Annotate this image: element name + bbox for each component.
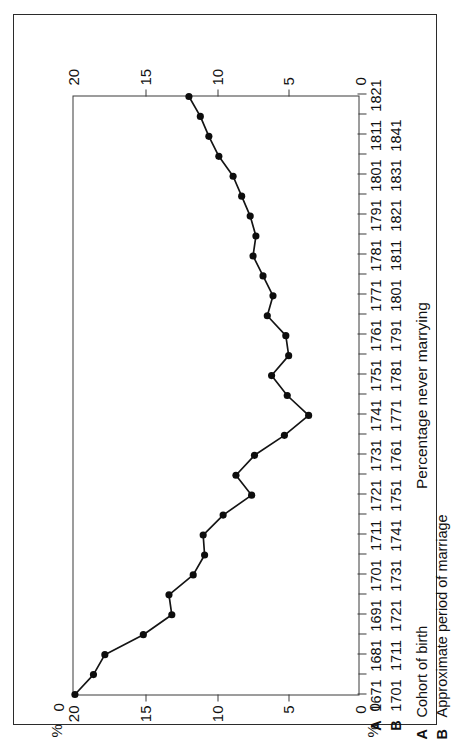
x-axis-tick-label: 1731 (386, 559, 404, 591)
data-point-marker (252, 232, 259, 239)
x-axis-tick-label: 1831 (386, 159, 404, 191)
x-axis-tick-label: 1841 (386, 119, 404, 151)
data-point-marker (269, 292, 276, 299)
x-axis-tick-label: 1781 (386, 359, 404, 391)
y-axis-title: Percentage never marrying (412, 95, 430, 695)
x-axis-tick-label: 1741 (366, 399, 384, 431)
plot-area (73, 96, 358, 694)
data-point-marker (215, 152, 222, 159)
x-axis-tick (358, 113, 366, 114)
series-polyline (74, 96, 308, 694)
y-axis-tick (145, 89, 146, 96)
y-axis-tick-label: 20 (66, 68, 81, 85)
y-axis-tick-label: 5 (281, 705, 296, 713)
x-axis-tick (358, 673, 366, 674)
x-axis-tick-label: 1711 (366, 519, 384, 550)
x-axis-tick (358, 273, 366, 274)
x-axis-tick (358, 193, 366, 194)
x-axis-tick (357, 173, 366, 174)
x-axis-tick (357, 533, 366, 534)
data-point-marker (201, 551, 208, 558)
x-axis-tick-label: 1721 (366, 479, 384, 511)
x-axis-tick-label: 1791 (366, 199, 384, 231)
x-axis-tick-label: 1801 (366, 159, 384, 191)
x-axis-tick (357, 293, 366, 294)
x-axis-tick-label: 1771 (386, 399, 404, 431)
data-point-marker (165, 591, 172, 598)
x-axis-tick (357, 333, 366, 334)
x-axis-tick-label: 1751 (386, 479, 404, 511)
x-axis-tick-label: 1681 (366, 639, 384, 671)
x-axis-tick-label: 1811 (366, 119, 384, 150)
x-axis-tick-label: 1811 (386, 239, 404, 270)
data-point-marker (196, 112, 203, 119)
x-origin-zero-top: 0 (50, 703, 65, 711)
y-axis-tick-label: 15 (137, 705, 152, 722)
x-axis-tick (357, 93, 366, 94)
legend-text-b: Approximate period of marriage (432, 514, 450, 717)
x-axis-tick-label: 1671 (366, 679, 384, 711)
plot-box: 0055101015152020 (72, 95, 359, 695)
x-axis-tick-label: 1741 (386, 519, 404, 551)
y-axis-tick-label: 0 (353, 705, 368, 713)
x-axis-tick-label: 1821 (366, 79, 384, 111)
x-axis-tick-label: 1761 (366, 319, 384, 351)
x-axis-row-cohort-of-birth: 1671168116911701171117211731174117511761… (366, 95, 384, 695)
x-axis-tick (357, 453, 366, 454)
y-axis-tick (145, 694, 146, 701)
x-axis-tick (358, 353, 366, 354)
x-axis-tick (357, 133, 366, 134)
y-axis-tick-label: 10 (209, 705, 224, 722)
figure: % % 0 0 0055101015152020 167116811691170… (14, 15, 463, 744)
data-point-marker (263, 312, 270, 319)
x-axis-tick (357, 653, 366, 654)
x-axis-tick (357, 253, 366, 254)
percent-symbol-top: % (48, 724, 63, 737)
x-axis-tick (358, 153, 366, 154)
data-point-marker (249, 252, 256, 259)
data-point-marker (101, 651, 108, 658)
y-axis-tick-label: 5 (281, 77, 296, 85)
x-axis-tick-label: 1751 (366, 359, 384, 391)
x-axis-tick (357, 613, 366, 614)
x-axis-row-key: B (386, 720, 404, 730)
y-axis-tick (217, 89, 218, 96)
y-axis-tick-label: 15 (137, 68, 152, 85)
x-axis-tick (358, 553, 366, 554)
data-point-marker (259, 272, 266, 279)
x-axis-tick (358, 473, 366, 474)
x-axis-tick-label: 1731 (366, 439, 384, 471)
x-axis-row-key: A (366, 720, 384, 730)
x-axis-tick (357, 693, 366, 694)
y-axis-tick (288, 694, 289, 701)
x-axis-tick-label: 1721 (386, 599, 404, 631)
x-axis-tick (357, 573, 366, 574)
x-axis-tick (358, 633, 366, 634)
x-axis-tick (357, 213, 366, 214)
x-axis-tick-label: 1761 (386, 439, 404, 471)
x-axis-tick-label: 1701 (386, 679, 404, 711)
y-axis-tick-label: 20 (66, 705, 81, 722)
x-axis-tick-label: 1691 (366, 599, 384, 631)
x-axis-tick (358, 233, 366, 234)
data-series-line (73, 96, 358, 694)
data-point-marker (205, 132, 212, 139)
y-axis-tick (288, 89, 289, 96)
x-axis-tick (358, 433, 366, 434)
x-axis-tick (357, 493, 366, 494)
x-axis-tick (358, 593, 366, 594)
data-point-marker (285, 352, 292, 359)
y-axis-tick-label: 10 (209, 68, 224, 85)
x-axis-tick-label: 1711 (386, 639, 404, 670)
x-axis-tick-label: 1821 (386, 199, 404, 231)
legend-key-b: B (432, 729, 450, 739)
data-point-marker (185, 92, 192, 99)
x-axis-tick-label: 1781 (366, 239, 384, 271)
x-axis-tick (358, 313, 366, 314)
rotated-figure-canvas: % % 0 0 0055101015152020 167116811691170… (14, 15, 463, 744)
x-axis-tick (357, 373, 366, 374)
x-axis-tick (357, 413, 366, 414)
legend-key-a: A (412, 729, 430, 739)
x-axis-tick (358, 513, 366, 514)
x-axis-tick-label: 1801 (386, 279, 404, 311)
